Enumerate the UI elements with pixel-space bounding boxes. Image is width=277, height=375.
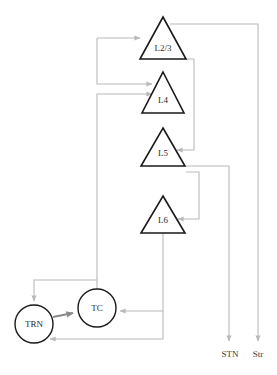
l23-label: L2/3 <box>155 43 172 53</box>
l4-label: L4 <box>158 95 168 105</box>
node-l5[interactable]: L5 <box>141 128 185 166</box>
output-labels-layer: STN Str <box>221 349 263 359</box>
node-trn[interactable]: TRN <box>15 305 53 343</box>
trn-label: TRN <box>25 319 44 329</box>
connection-tc-to-l4[interactable] <box>97 94 152 289</box>
connections-layer <box>34 24 258 341</box>
l4-triangle[interactable] <box>142 72 184 113</box>
connection-l23-to-str[interactable] <box>170 24 258 341</box>
l5-triangle[interactable] <box>141 128 185 166</box>
diagram-canvas: L2/3 L4 L5 L6 TRN TC <box>0 0 277 375</box>
l5-label: L5 <box>158 148 168 158</box>
connection-trn-to-tc[interactable] <box>53 313 73 317</box>
connection-l5-to-stn[interactable] <box>186 166 229 341</box>
output-label-stn: STN <box>221 349 239 359</box>
connection-l6-to-tc[interactable] <box>120 233 163 311</box>
cortical-layers-layer: L2/3 L4 L5 L6 <box>140 17 186 233</box>
tc-label: TC <box>91 303 103 313</box>
circuit-diagram-svg: L2/3 L4 L5 L6 TRN TC <box>0 0 277 375</box>
node-tc[interactable]: TC <box>78 289 116 327</box>
connection-l5-to-l6[interactable] <box>178 172 199 219</box>
output-label-str: Str <box>253 349 264 359</box>
connection-l23-to-l4[interactable] <box>97 38 152 84</box>
node-l23[interactable]: L2/3 <box>140 17 186 59</box>
thalamic-nuclei-layer: TRN TC <box>15 289 116 343</box>
node-l4[interactable]: L4 <box>142 72 184 113</box>
l6-label: L6 <box>158 215 168 225</box>
node-l6[interactable]: L6 <box>141 196 185 233</box>
